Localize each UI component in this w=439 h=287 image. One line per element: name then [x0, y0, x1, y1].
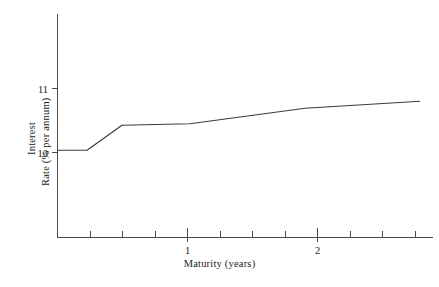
x-axis-title: Maturity (years) — [0, 258, 439, 269]
chart-plot-area: 11 10 1 2 — [0, 0, 439, 287]
yield-curve-figure: 11 10 1 2 Interest Rate (% per annum) Ma… — [0, 0, 439, 287]
y-axis-title: Interest Rate (% per annum) — [0, 0, 48, 237]
y-axis-title-line2: Rate (% per annum) — [40, 98, 51, 186]
y-axis-title-line1: Interest — [26, 122, 37, 155]
yield-curve-line — [58, 101, 421, 150]
x-tick-label-2: 2 — [315, 245, 320, 256]
x-tick-label-1: 1 — [185, 245, 190, 256]
